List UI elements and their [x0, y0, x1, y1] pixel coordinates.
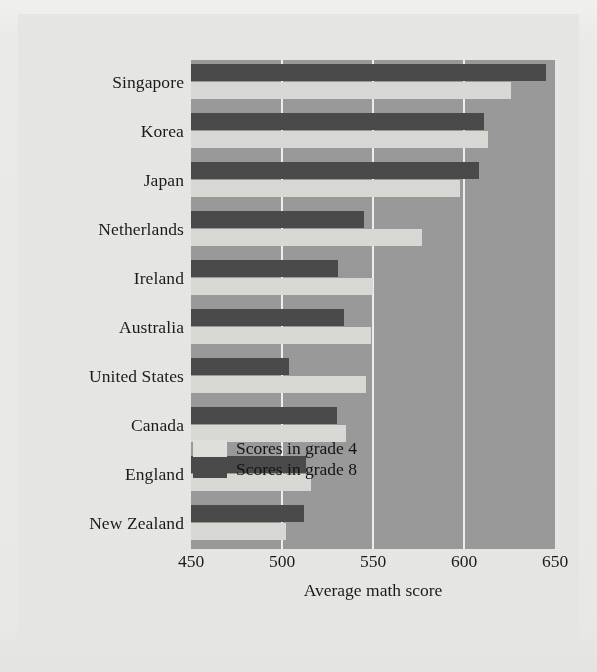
bar-grade4 [191, 278, 373, 295]
legend-label-grade8: Scores in grade 8 [236, 459, 357, 480]
category-label-korea: Korea [24, 121, 184, 142]
category-label-england: England [24, 464, 184, 485]
category-label-australia: Australia [24, 317, 184, 338]
bar-grade4 [191, 131, 488, 148]
bar-grade4 [191, 180, 460, 197]
category-label-netherlands: Netherlands [24, 219, 184, 240]
bar-grade8 [191, 358, 289, 375]
category-axis-labels: SingaporeKoreaJapanNetherlandsIrelandAus… [18, 60, 184, 549]
chart-figure: SingaporeKoreaJapanNetherlandsIrelandAus… [18, 14, 579, 659]
bar-grade4 [191, 327, 371, 344]
bar-grade4 [191, 229, 422, 246]
bar-grade8 [191, 211, 364, 228]
category-label-canada: Canada [24, 415, 184, 436]
chart-legend: Scores in grade 4 Scores in grade 8 [193, 438, 393, 480]
category-label-ireland: Ireland [24, 268, 184, 289]
bar-grade8 [191, 113, 484, 130]
x-tick-label-450: 450 [178, 551, 204, 572]
legend-item-grade8: Scores in grade 8 [193, 459, 393, 480]
x-tick-label-550: 550 [360, 551, 386, 572]
bar-grade8 [191, 309, 344, 326]
x-axis-title: Average math score [191, 580, 555, 601]
x-axis-ticks: 450500550600650 [191, 551, 555, 577]
category-label-united-states: United States [24, 366, 184, 387]
bar-grade4 [191, 523, 286, 540]
category-label-japan: Japan [24, 170, 184, 191]
category-label-new-zealand: New Zealand [24, 513, 184, 534]
bar-grade4 [191, 376, 366, 393]
bar-grade8 [191, 407, 337, 424]
bar-grade8 [191, 260, 338, 277]
bar-grade8 [191, 162, 479, 179]
legend-item-grade4: Scores in grade 4 [193, 438, 393, 459]
bar-grade8 [191, 505, 304, 522]
page-background: SingaporeKoreaJapanNetherlandsIrelandAus… [0, 0, 597, 672]
legend-swatch-grade8-icon [193, 461, 227, 478]
legend-swatch-grade4-icon [193, 440, 227, 457]
bar-grade8 [191, 64, 546, 81]
x-tick-label-650: 650 [542, 551, 568, 572]
x-tick-label-500: 500 [269, 551, 295, 572]
x-tick-label-600: 600 [451, 551, 477, 572]
category-label-singapore: Singapore [24, 72, 184, 93]
bar-grade4 [191, 82, 511, 99]
legend-label-grade4: Scores in grade 4 [236, 438, 357, 459]
